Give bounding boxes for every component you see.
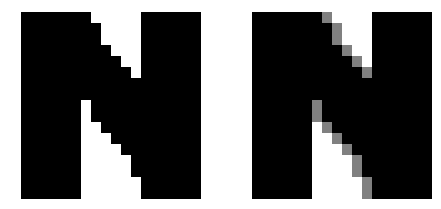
antialias-pixel-left: [362, 188, 372, 199]
antialias-pixel-left: [352, 166, 362, 177]
diagonal-block: [81, 23, 101, 34]
diagonal-block: [141, 177, 151, 188]
diagonal-block: [312, 56, 352, 67]
diagonal-block: [312, 34, 332, 45]
diagonal-block: [312, 12, 322, 23]
diagonal-block: [372, 177, 382, 188]
diagonal-block: [141, 188, 151, 199]
diagonal-block: [312, 23, 332, 34]
diagonal-block: [81, 34, 101, 45]
diagonal-block: [131, 155, 151, 166]
left-stem: [21, 12, 81, 199]
diagonal-block: [312, 78, 372, 89]
diagonal-block: [111, 133, 151, 144]
diagonal-block: [322, 100, 382, 111]
diagonal-block: [312, 67, 362, 78]
left-stem: [252, 12, 312, 199]
antialias-pixel-left: [342, 144, 352, 155]
image-canvas: [0, 0, 441, 209]
diagonal-block: [362, 166, 382, 177]
diagonal-block: [81, 56, 121, 67]
diagonal-block: [91, 100, 151, 111]
diagonal-block: [131, 166, 151, 177]
diagonal-block: [342, 133, 382, 144]
left-glyph-aliased-panel: [0, 0, 220, 209]
diagonal-block: [81, 67, 131, 78]
antialias-pixel-right: [332, 34, 342, 45]
antialias-pixel-left: [332, 133, 342, 144]
antialias-pixel-left: [312, 100, 322, 111]
diagonal-block: [322, 111, 382, 122]
diagonal-block: [81, 78, 141, 89]
letter-n-aliased-icon: [0, 0, 220, 209]
antialias-pixel-left: [352, 155, 362, 166]
antialias-pixel-left: [362, 177, 372, 188]
antialias-pixel-right: [342, 45, 352, 56]
antialias-pixel-right: [322, 12, 332, 23]
diagonal-block: [312, 89, 382, 100]
antialias-pixel-left: [312, 111, 322, 122]
antialias-pixel-right: [362, 67, 372, 78]
diagonal-block: [81, 45, 111, 56]
diagonal-block: [372, 188, 382, 199]
antialias-pixel-right: [332, 23, 342, 34]
diagonal-block: [332, 122, 382, 133]
diagonal-block: [121, 144, 151, 155]
diagonal-block: [101, 122, 151, 133]
diagonal-block: [362, 155, 382, 166]
right-glyph-antialiased-panel: [221, 0, 441, 209]
diagonal-block: [312, 45, 342, 56]
diagonal-block: [81, 12, 91, 23]
letter-n-antialiased-icon: [221, 0, 441, 209]
diagonal-block: [91, 111, 151, 122]
diagonal-block: [81, 89, 151, 100]
antialias-pixel-left: [322, 122, 332, 133]
diagonal-block: [352, 144, 382, 155]
antialias-pixel-right: [352, 56, 362, 67]
